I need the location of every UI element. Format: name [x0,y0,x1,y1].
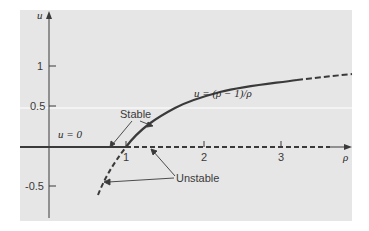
y-tick-label--0.5: -0.5 [25,180,44,192]
x-tick-label-3: 3 [278,151,284,163]
y-tick-label-1: 1 [37,60,43,72]
u-zero-label: u = 0 [58,128,82,140]
x-tick-label-2: 2 [201,151,207,163]
bifurcation-chart: u 1 0.5 -0.5 ρ 1 2 3 u = 0 u = (ρ − 1)/ρ… [0,0,369,231]
chart-background [20,10,352,221]
curve-equation-label: u = (ρ − 1)/ρ [194,87,252,100]
x-tick-label-1: 1 [123,151,129,163]
stable-label: Stable [120,108,151,120]
y-axis-label: u [37,9,43,21]
y-tick-label-0.5: 0.5 [30,100,45,112]
x-axis-label: ρ [342,151,348,163]
unstable-label: Unstable [176,172,219,184]
